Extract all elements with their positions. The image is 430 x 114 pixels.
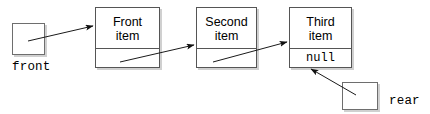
list-node-first-link-cell <box>96 49 159 67</box>
list-node-second-data-line2: item <box>215 29 239 43</box>
list-node-second-data-line1: Second <box>205 15 247 29</box>
list-node-first-data-cell: Front item <box>96 8 159 49</box>
front-pointer-label: front <box>12 60 51 74</box>
list-node-second-data-cell: Second item <box>197 8 256 49</box>
list-node-first: Front item <box>95 7 160 68</box>
list-node-second: Second item <box>196 7 257 68</box>
rear-pointer-box <box>342 82 378 110</box>
list-node-third-data-line2: item <box>309 29 333 43</box>
list-node-first-data-line1: Front <box>113 15 142 29</box>
list-node-third: Third item null <box>289 7 352 68</box>
list-node-third-link-cell-null: null <box>290 49 351 67</box>
list-node-second-link-cell <box>197 49 256 67</box>
linked-list-diagram: front Front item Second item Third item … <box>0 0 430 114</box>
rear-pointer-label: rear <box>389 94 420 108</box>
front-pointer-box <box>12 23 45 55</box>
list-node-third-data-cell: Third item <box>290 8 351 49</box>
list-node-third-data-line1: Third <box>306 15 334 29</box>
list-node-first-data-line2: item <box>116 29 140 43</box>
